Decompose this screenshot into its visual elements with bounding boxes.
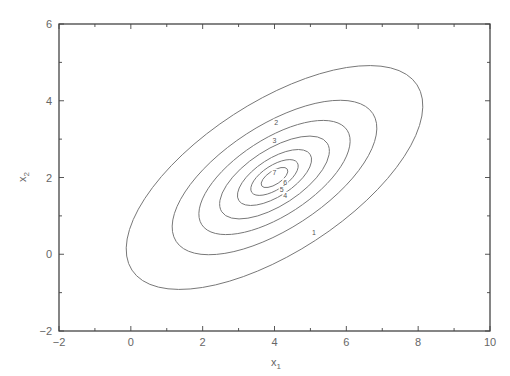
contour-level-5 — [229, 139, 321, 217]
y-tick-label: −2 — [39, 325, 52, 337]
contour-plot: 1234567 −20246810 −20246 x1 x2 — [0, 0, 510, 376]
contour-label: 2 — [274, 119, 278, 126]
contour-label: 6 — [283, 179, 287, 186]
y-tick-label: 6 — [46, 18, 52, 30]
x-tick-label: 10 — [484, 336, 496, 348]
contour-label: 5 — [280, 186, 284, 193]
contour-level-2 — [148, 70, 401, 285]
y-tick-label: 4 — [46, 95, 52, 107]
axis-ticks — [59, 24, 490, 331]
contour-level-6 — [245, 153, 304, 203]
y-tick-labels: −20246 — [39, 18, 52, 337]
x-tick-label: 4 — [271, 336, 277, 348]
x-tick-label: 0 — [128, 336, 134, 348]
contour-label: 4 — [283, 192, 287, 199]
x-tick-label: 6 — [343, 336, 349, 348]
y-axis-label: x2 — [16, 172, 31, 183]
contour-level-7 — [258, 164, 291, 192]
x-tick-label: −2 — [53, 336, 66, 348]
y-tick-label: 0 — [46, 248, 52, 260]
contour-level-1 — [91, 22, 458, 333]
x-axis-label: x1 — [271, 356, 282, 371]
contour-label: 7 — [273, 169, 277, 176]
y-tick-label: 2 — [46, 172, 52, 184]
x-tick-labels: −20246810 — [53, 336, 496, 348]
contour-label: 1 — [312, 229, 316, 236]
contour-label: 3 — [273, 137, 277, 144]
x-tick-label: 2 — [200, 336, 206, 348]
x-tick-label: 8 — [415, 336, 421, 348]
plot-frame — [59, 24, 490, 331]
contour-lines — [91, 22, 458, 333]
